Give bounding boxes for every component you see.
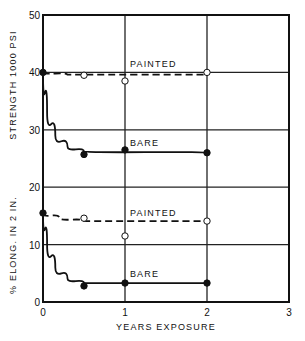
filled-circle-marker [204,150,210,156]
y-axis-label-lower: % ELONG. IN 2 IN. [8,196,18,294]
filled-circle-marker [81,283,87,289]
open-circle-marker [81,215,87,221]
series-labels: PAINTEDBAREPAINTEDBARE [130,59,177,279]
x-tick-label: 2 [204,307,210,318]
x-tick-labels: 0123 [40,307,292,318]
series-label: PAINTED [130,59,177,69]
open-circle-marker [204,69,210,75]
y-tick-label: 20 [29,182,41,193]
open-circle-marker [81,72,87,78]
y-tick-label: 40 [29,67,41,78]
series-label: BARE [130,269,159,279]
plot-frame [43,15,289,302]
series-label: BARE [130,138,159,148]
filled-circle-marker [204,280,210,286]
y-tick-label: 50 [29,10,41,21]
open-circle-marker [204,218,210,224]
y-tick-label: 10 [29,240,41,251]
y-tick-labels: 01020304050 [29,10,41,308]
x-tick-label: 3 [286,307,292,318]
filled-circle-marker [122,147,128,153]
chart: 01020304050 0123 PAINTEDBAREPAINTEDBARE … [0,0,305,341]
series-label: PAINTED [130,208,177,218]
open-circle-marker [122,233,128,239]
x-tick-label: 0 [40,307,46,318]
grid-lines [43,15,289,302]
y-tick-label: 30 [29,125,41,136]
filled-circle-marker [122,280,128,286]
filled-circle-marker [81,151,87,157]
open-circle-marker [122,78,128,84]
x-axis-label: YEARS EXPOSURE [116,322,216,332]
x-tick-label: 1 [122,307,128,318]
y-axis-label-upper: STRENGTH 1000 PSI [8,30,18,139]
